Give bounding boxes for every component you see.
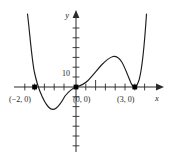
root-marker-origin [74, 85, 79, 90]
x-axis-title: x [154, 93, 159, 103]
y-axis-tick-label-10: 10 [62, 69, 70, 78]
root-marker-left [32, 85, 37, 90]
y-axis-title: y [64, 10, 69, 20]
graph-figure: (−2, 0) (0, 0) (3, 0) 10 y x [0, 0, 171, 166]
root-markers [32, 85, 137, 90]
label-left-root: (−2, 0) [9, 95, 31, 104]
label-right-root: (3, 0) [117, 95, 135, 104]
label-origin-root: (0, 0) [73, 95, 91, 104]
root-marker-right [132, 85, 137, 90]
annotation-overlay: (−2, 0) (0, 0) (3, 0) 10 y x [0, 0, 171, 166]
